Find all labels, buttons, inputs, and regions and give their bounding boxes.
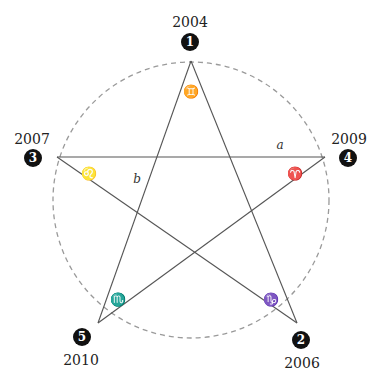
leo-icon: ♌ xyxy=(81,166,97,181)
edge-line xyxy=(98,61,191,323)
capricorn-icon: ♑ xyxy=(263,292,279,307)
pentagram-diagram: ♊♑♌♈♏ ab 1200422006320074200952010 xyxy=(0,0,381,380)
vertex-badge-1: 12004 xyxy=(172,14,208,51)
edge-line xyxy=(57,157,297,323)
badge-number: 1 xyxy=(186,35,194,49)
year-label: 2006 xyxy=(284,355,320,371)
year-label: 2009 xyxy=(331,131,367,147)
dashed-circle xyxy=(53,62,329,338)
vertex-badge-2: 22006 xyxy=(284,331,320,371)
badge-number: 4 xyxy=(344,151,352,165)
scorpio-icon: ♏ xyxy=(110,292,126,307)
pentagram-edges xyxy=(57,61,325,323)
zodiac-symbols: ♊♑♌♈♏ xyxy=(81,84,303,307)
segment-label-b: b xyxy=(133,172,141,186)
edge-line xyxy=(98,157,325,323)
aries-icon: ♈ xyxy=(287,166,303,181)
vertex-badge-4: 42009 xyxy=(331,131,367,167)
year-label: 2004 xyxy=(172,14,208,30)
vertex-badges: 1200422006320074200952010 xyxy=(14,14,367,371)
vertex-badge-3: 32007 xyxy=(14,131,50,167)
vertex-badge-5: 52010 xyxy=(63,328,99,368)
year-label: 2010 xyxy=(63,352,99,368)
badge-number: 3 xyxy=(29,151,37,165)
edge-line xyxy=(191,61,297,323)
segment-label-a: a xyxy=(276,138,283,152)
year-label: 2007 xyxy=(14,131,50,147)
badge-number: 5 xyxy=(78,330,86,344)
badge-number: 2 xyxy=(297,333,305,347)
gemini-icon: ♊ xyxy=(183,84,199,99)
